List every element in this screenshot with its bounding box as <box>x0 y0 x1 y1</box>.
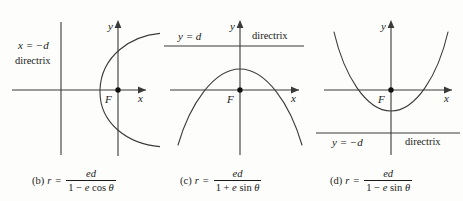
den-func: sin <box>237 182 255 193</box>
y-axis-label: y <box>108 21 113 32</box>
den-angle: θ <box>109 182 114 193</box>
panel-b: x = −d directrix y x F (b) r = ed 1 − e … <box>0 0 160 201</box>
fraction-denominator: 1 + e sin θ <box>214 182 262 193</box>
den-lead: 1 + <box>216 182 232 193</box>
focus-point <box>115 87 120 92</box>
fraction-numerator: ed <box>82 168 100 179</box>
den-func: sin <box>387 182 405 193</box>
caption-fraction: ed 1 − e cos θ <box>66 168 116 193</box>
focus-point <box>237 87 242 92</box>
directrix-word-label: directrix <box>405 137 441 148</box>
panel-c: y = d directrix y x F (c) r = ed 1 + e s… <box>156 0 308 201</box>
directrix-word-label: directrix <box>15 56 51 67</box>
fraction-numerator: ed <box>229 168 247 179</box>
y-axis-label: y <box>230 21 235 32</box>
focus-point <box>388 87 393 92</box>
y-axis-label: y <box>381 21 386 32</box>
caption-equals: = <box>203 175 211 186</box>
caption-d: (d) r = ed 1 − e sin θ <box>330 168 412 193</box>
directrix-word-label: directrix <box>252 31 288 42</box>
caption-tag: (b) <box>32 175 44 186</box>
directrix-equation-label: y = d <box>178 31 201 42</box>
caption-equals: = <box>55 175 63 186</box>
caption-tag: (c) <box>180 175 192 186</box>
conic-sections-figure: x = −d directrix y x F (b) r = ed 1 − e … <box>0 0 463 201</box>
panel-d: y = −d directrix y x F (d) r = ed 1 − e … <box>310 0 463 201</box>
x-axis-label: x <box>138 93 143 104</box>
x-axis-label: x <box>444 93 449 104</box>
directrix-equation-label: y = −d <box>332 137 363 148</box>
fraction-denominator: 1 − e sin θ <box>364 182 412 193</box>
caption-fraction: ed 1 − e sin θ <box>364 168 412 193</box>
caption-tag: (d) <box>330 175 342 186</box>
caption-lhs: r <box>345 175 350 186</box>
caption-c: (c) r = ed 1 + e sin θ <box>180 168 261 193</box>
den-angle: θ <box>254 182 259 193</box>
focus-label: F <box>105 94 112 105</box>
caption-fraction: ed 1 + e sin θ <box>214 168 262 193</box>
caption-b: (b) r = ed 1 − e cos θ <box>32 168 116 193</box>
focus-label: F <box>378 94 385 105</box>
y-axis-arrow <box>237 20 244 28</box>
den-lead: 1 − <box>366 182 382 193</box>
den-angle: θ <box>405 182 410 193</box>
fraction-denominator: 1 − e cos θ <box>66 182 116 193</box>
fraction-numerator: ed <box>379 168 397 179</box>
den-lead: 1 − <box>68 182 84 193</box>
caption-equals: = <box>353 175 361 186</box>
den-func: cos <box>89 182 108 193</box>
focus-label: F <box>227 94 234 105</box>
x-axis-label: x <box>291 93 296 104</box>
y-axis-arrow <box>115 20 122 28</box>
y-axis-arrow <box>388 20 395 28</box>
caption-lhs: r <box>195 175 200 186</box>
caption-lhs: r <box>47 175 52 186</box>
directrix-equation-label: x = −d <box>18 40 49 51</box>
